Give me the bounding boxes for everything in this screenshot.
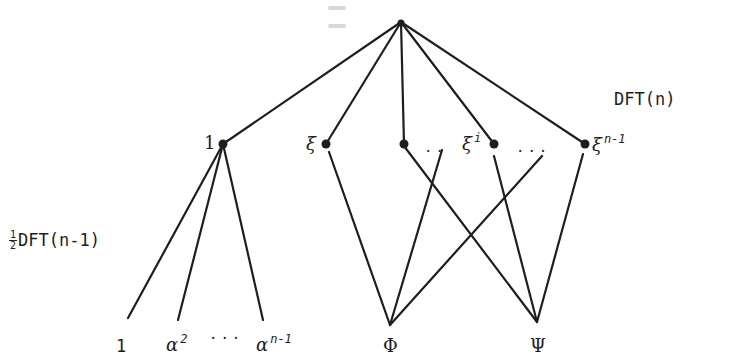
leaf-phi-label: Φ bbox=[383, 337, 398, 355]
node-xi-label: ξ bbox=[306, 135, 316, 153]
dft-tree-diagram: DFT(n) 1 2 DFT(n-1) 1 ξ .. ξi ... ξn-1 1… bbox=[0, 0, 754, 362]
ellipsis-after-xi-i: ... bbox=[516, 140, 550, 154]
half-dft-label: 1 2 DFT(n-1) bbox=[9, 230, 100, 251]
node-blank bbox=[400, 140, 409, 149]
node-one-label: 1 bbox=[204, 134, 215, 152]
node-xi bbox=[322, 140, 331, 149]
leaf-ellipsis: ··· bbox=[209, 331, 243, 345]
node-one bbox=[219, 140, 228, 149]
leaf-alpha-n-1-label: αn-1 bbox=[256, 336, 292, 354]
leaf-one-label: 1 bbox=[116, 338, 126, 355]
dft-n-label: DFT(n) bbox=[614, 91, 675, 108]
diagram-canvas bbox=[0, 0, 754, 362]
one-half-fraction: 1 2 bbox=[9, 230, 17, 251]
cross-edges bbox=[329, 146, 583, 325]
node-xi-n-1-label: ξn-1 bbox=[592, 136, 626, 154]
node-xi-i-label: ξi bbox=[462, 135, 481, 153]
half-dft-edges bbox=[128, 144, 263, 320]
root-edges bbox=[223, 22, 585, 144]
node-xi-n-1 bbox=[581, 140, 590, 149]
leaf-alpha-2-label: α2 bbox=[166, 336, 187, 354]
node-xi-i bbox=[490, 140, 499, 149]
root-node bbox=[398, 20, 405, 27]
ellipsis-after-blank: .. bbox=[424, 140, 447, 154]
leaf-psi-label: Ψ bbox=[530, 337, 546, 355]
